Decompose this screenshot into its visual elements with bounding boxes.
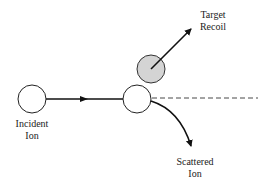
scattered-ion-label-line1: Scattered	[172, 156, 218, 168]
target-recoil-label-line2: Recoil	[196, 21, 230, 33]
incident-ion-label-line1: Incident	[12, 118, 52, 130]
collision-ion-circle	[123, 85, 151, 113]
incident-ion-label-line2: Ion	[12, 130, 52, 142]
incident-direction-arrowhead-icon	[80, 96, 88, 102]
scattered-ion-path	[151, 101, 191, 146]
target-recoil-path	[151, 29, 191, 69]
incident-ion-label: Incident Ion	[12, 118, 52, 142]
incident-ion-circle	[18, 85, 46, 113]
target-recoil-label-line1: Target	[196, 9, 230, 21]
scattered-ion-label: Scattered Ion	[172, 156, 218, 180]
target-recoil-label: Target Recoil	[196, 9, 230, 33]
scattered-ion-label-line2: Ion	[172, 168, 218, 180]
